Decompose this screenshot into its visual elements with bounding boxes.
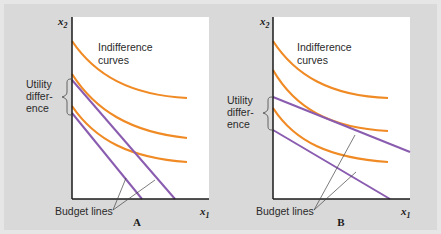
utility-difference-label-a: Utility: [26, 78, 52, 90]
utility-difference-label-a-3: ence: [26, 102, 49, 114]
y-axis-label-a: x2: [57, 15, 68, 30]
utility-difference-label-b: Utility: [227, 94, 253, 106]
utility-brace-a: [62, 79, 71, 115]
utility-difference-label-b-2: differ-: [227, 106, 254, 118]
budget-lines-label-a: Budget lines: [55, 205, 113, 217]
panel-title-a: A: [133, 216, 141, 228]
panel-b: x2 x1 Indifference curves Utility differ…: [227, 15, 411, 228]
panel-title-b: B: [337, 216, 345, 228]
indifference-curves-label-a: Indifference: [98, 41, 153, 53]
utility-brace-b: [263, 97, 272, 130]
budget-lines-label-b: Budget lines: [256, 205, 314, 217]
figure-diagram: x2 x1 Indifference curves Utility differ…: [0, 0, 441, 234]
x-axis-label-b: x1: [400, 205, 411, 220]
panel-a: x2 x1 Indifference curves Utility differ…: [26, 15, 210, 228]
indifference-curves-label-b: Indifference: [297, 41, 352, 53]
indifference-curves-label-b-2: curves: [297, 54, 328, 66]
y-axis-label-b: x2: [259, 15, 270, 30]
utility-difference-label-b-3: ence: [227, 118, 250, 130]
x-axis-label-a: x1: [199, 205, 210, 220]
indifference-curves-label-a-2: curves: [98, 54, 129, 66]
utility-difference-label-a-2: differ-: [26, 90, 53, 102]
